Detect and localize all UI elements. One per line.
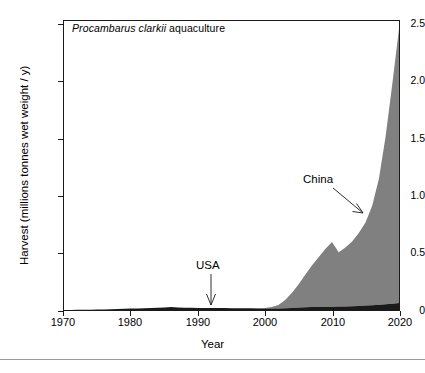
plot-title-rest: aquaculture — [166, 22, 225, 34]
x-tick-label: 1980 — [105, 316, 155, 328]
x-tick-label: 1970 — [38, 316, 88, 328]
x-tick-label: 2020 — [375, 316, 425, 328]
x-tick-label: 1990 — [173, 316, 223, 328]
y-axis-label: Harvest (millions tonnes wet weight / y) — [18, 66, 30, 265]
x-tick-label: 2010 — [308, 316, 358, 328]
stacked-area-series — [64, 21, 399, 310]
x-tick-label: 2000 — [240, 316, 290, 328]
figure-container: Harvest (millions tonnes wet weight / y)… — [0, 0, 425, 373]
x-axis-label: Year — [0, 338, 425, 350]
annotation-usa: USA — [196, 259, 220, 271]
plot-title-species: Procambarus clarkii — [72, 22, 166, 34]
plot-area — [63, 20, 400, 311]
area-china — [64, 29, 399, 310]
annotation-china: China — [303, 173, 333, 185]
plot-title: Procambarus clarkii aquaculture — [72, 22, 225, 34]
bottom-rule — [0, 359, 425, 360]
